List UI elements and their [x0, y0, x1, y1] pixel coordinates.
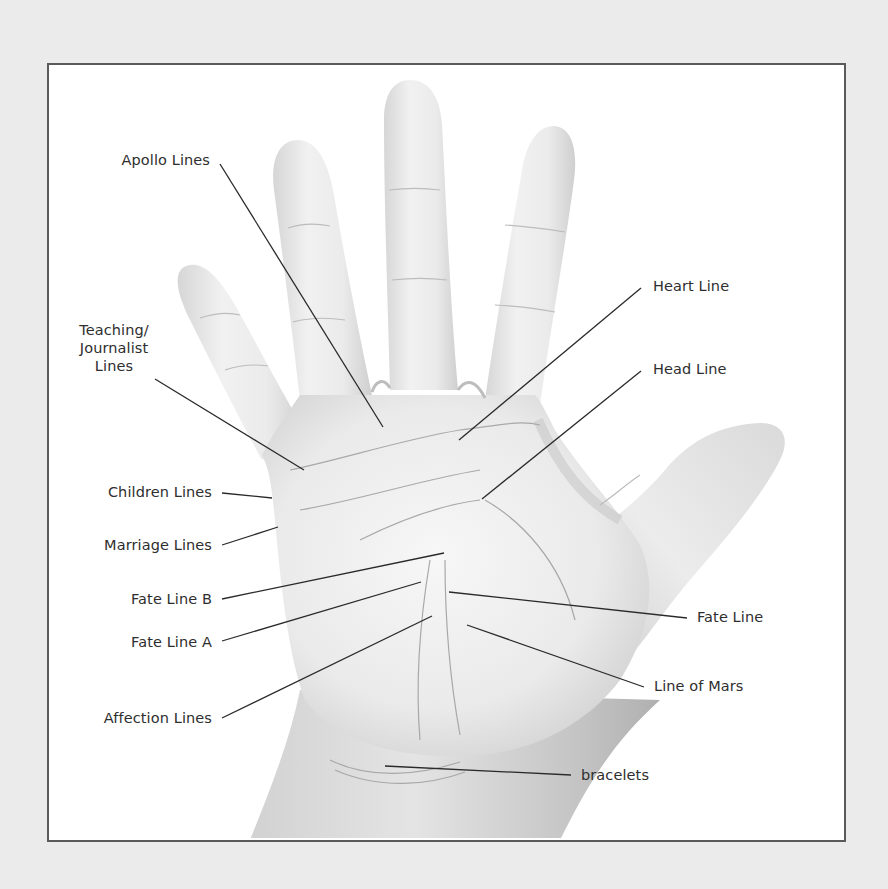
index-finger: [485, 126, 575, 420]
label-apollo-lines: Apollo Lines: [100, 151, 210, 169]
label-heart-line: Heart Line: [653, 277, 729, 295]
label-line-of-mars: Line of Mars: [654, 677, 744, 695]
label-teaching-line-3: Lines: [72, 357, 156, 375]
label-fate-line-b: Fate Line B: [60, 590, 212, 608]
label-children-lines: Children Lines: [60, 483, 212, 501]
label-affection-lines: Affection Lines: [60, 709, 212, 727]
label-fate-line-a: Fate Line A: [60, 633, 212, 651]
label-teaching-line-1: Teaching/: [72, 321, 156, 339]
leader-children: [222, 493, 272, 498]
label-teaching-line-2: Journalist: [72, 339, 156, 357]
palm: [262, 395, 649, 756]
hand-illustration: [0, 0, 888, 889]
label-fate-line: Fate Line: [697, 608, 763, 626]
hand: [178, 80, 785, 840]
ring-finger: [273, 140, 372, 400]
middle-finger: [384, 80, 458, 390]
leader-marriage: [222, 527, 278, 545]
label-marriage-lines: Marriage Lines: [60, 536, 212, 554]
label-teaching-journalist-lines: Teaching/ Journalist Lines: [72, 321, 156, 375]
label-head-line: Head Line: [653, 360, 727, 378]
label-bracelets: bracelets: [581, 766, 649, 784]
